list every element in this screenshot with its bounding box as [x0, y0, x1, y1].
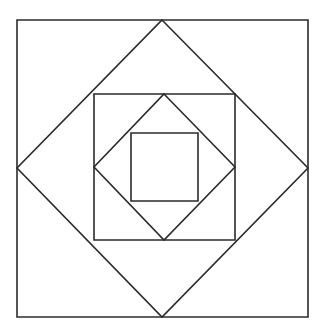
nested-squares-figure — [0, 0, 317, 333]
figure-background — [0, 0, 317, 333]
